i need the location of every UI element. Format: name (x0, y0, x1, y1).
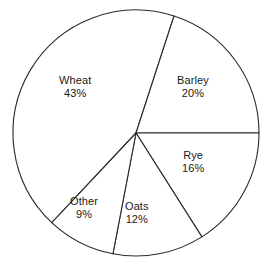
slice-value: 12% (125, 213, 149, 226)
slice-name: Oats (125, 200, 149, 213)
pie-chart-figure: n % Wheat43%Barley20%Rye16%Oats12%Other9… (0, 0, 265, 264)
slice-value: 43% (59, 87, 91, 100)
slice-value: 20% (177, 87, 209, 100)
pie-slice-label-rye: Rye16% (182, 149, 204, 175)
pie-slice-label-wheat: Wheat43% (59, 74, 91, 100)
pie-slice-label-barley: Barley20% (177, 74, 209, 100)
slice-value: 9% (70, 208, 98, 221)
pie-slice-label-oats: Oats12% (125, 200, 149, 226)
slice-name: Other (70, 195, 98, 208)
slice-name: Wheat (59, 74, 91, 87)
slice-name: Rye (182, 149, 204, 162)
pie-slice-label-other: Other9% (70, 195, 98, 221)
slice-value: 16% (182, 162, 204, 175)
slice-name: Barley (177, 74, 209, 87)
